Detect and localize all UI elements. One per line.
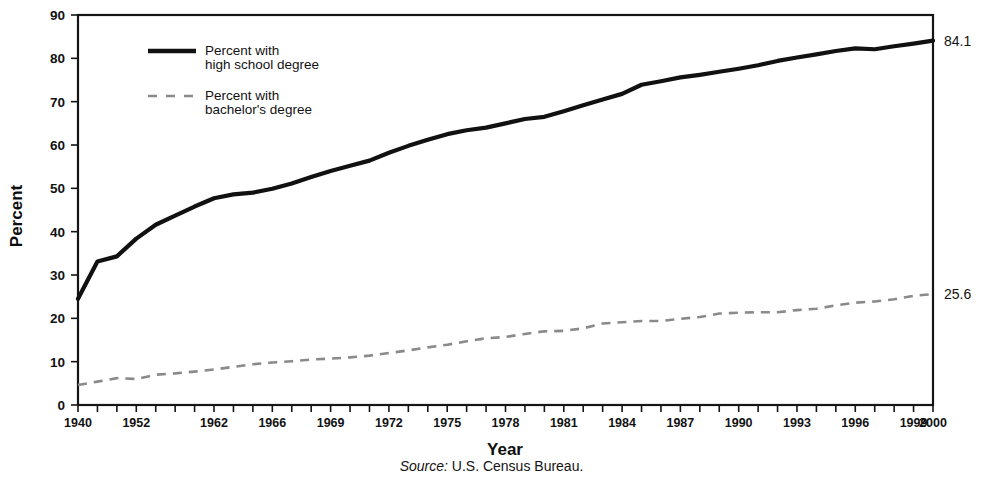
- x-axis-title: Year: [487, 440, 523, 459]
- source-note: Source: U.S. Census Bureau.: [0, 458, 983, 474]
- y-axis-tick-label: 10: [50, 355, 65, 370]
- chart-figure: 0102030405060708090 19401952196219661969…: [0, 0, 983, 483]
- x-axis-tick-label: 1966: [258, 416, 286, 430]
- x-axis-tick-label: 1981: [550, 416, 578, 430]
- x-axis-tick-label: 1972: [375, 416, 403, 430]
- y-axis-tick-label: 60: [50, 138, 65, 153]
- y-axis-tick-label: 0: [57, 398, 65, 413]
- x-axis-tick-label: 2000: [919, 416, 947, 430]
- x-axis-tick-label: 1952: [122, 416, 150, 430]
- y-axis-tick-label: 90: [50, 8, 65, 23]
- x-axis-tick-label: 1990: [725, 416, 753, 430]
- source-text: U.S. Census Bureau.: [452, 458, 584, 474]
- y-axis-tick-label: 70: [50, 95, 65, 110]
- x-axis-tick-label: 1984: [608, 416, 636, 430]
- x-axis-tick-label: 1975: [433, 416, 461, 430]
- legend-label-high-school-line2: high school degree: [205, 57, 319, 72]
- end-label-high-school: 84.1: [944, 33, 971, 49]
- x-axis-tick-label: 1987: [666, 416, 694, 430]
- x-axis-tick-label: 1969: [317, 416, 345, 430]
- x-axis-tick-label: 1993: [783, 416, 811, 430]
- y-axis-tick-label: 30: [50, 268, 65, 283]
- x-axis-tick-label: 1978: [492, 416, 520, 430]
- legend-label-bachelor-line1: Percent with: [205, 88, 279, 103]
- y-axis-tick-label: 80: [50, 51, 65, 66]
- source-prefix: Source:: [400, 458, 448, 474]
- education-attainment-line-chart: 0102030405060708090 19401952196219661969…: [0, 0, 983, 483]
- legend-label-bachelor-line2: bachelor's degree: [205, 102, 312, 117]
- y-axis-tick-label: 40: [50, 225, 65, 240]
- y-axis-tick-label: 50: [50, 181, 65, 196]
- end-label-bachelor: 25.6: [944, 286, 971, 302]
- y-axis-title: Percent: [7, 184, 26, 247]
- x-axis-tick-label: 1940: [64, 416, 92, 430]
- y-axis-tick-label: 20: [50, 311, 65, 326]
- x-axis-tick-label: 1996: [841, 416, 869, 430]
- x-axis-tick-label: 1962: [200, 416, 228, 430]
- legend-label-high-school-line1: Percent with: [205, 43, 279, 58]
